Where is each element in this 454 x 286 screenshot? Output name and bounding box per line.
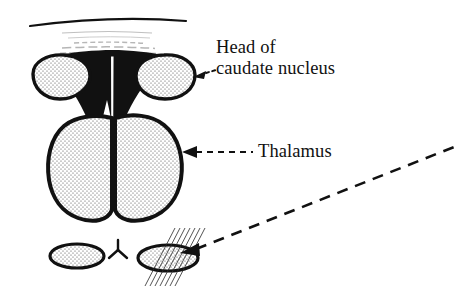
inset-leader [180,147,454,256]
midline-y-mark [109,240,127,258]
figure-root: Head ofcaudate nucleus Thalamus [0,0,454,286]
label-caudate-nucleus: Head ofcaudate nucleus [216,37,335,78]
thalamus-right [115,115,182,220]
superior-arc [30,19,186,26]
label-caudate-line2: caudate nucleus [216,58,335,78]
label-caudate-line1: Head of [216,37,276,57]
inferior-oval-left [50,244,104,268]
label-thalamus-line1: Thalamus [258,141,332,161]
label-thalamus: Thalamus [258,141,332,162]
caudate-head-right [136,55,195,99]
caudate-head-left [33,55,90,99]
thalamus-left [48,116,112,221]
thalamus-leader [182,146,253,158]
